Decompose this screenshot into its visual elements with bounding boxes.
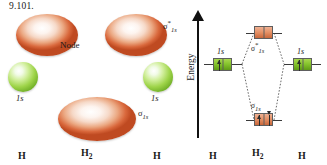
antibonding-orbital-label: σ*1s xyxy=(163,19,177,33)
subshell-glyph: 1s xyxy=(259,47,265,54)
subshell-glyph: 1s xyxy=(171,26,177,33)
atom-symbol: H xyxy=(209,150,217,161)
box-divider xyxy=(263,114,264,125)
atom-symbol: H xyxy=(18,150,26,161)
atomic-orbital-sphere-right xyxy=(143,62,173,92)
bonding-orbital-lobe xyxy=(58,97,136,141)
atom-symbol: H xyxy=(81,147,89,158)
atomic-orbital-label-left: 1s xyxy=(16,93,24,103)
atom-label-h2: H2 xyxy=(81,147,93,161)
energy-level-panel: Energy 1s 1s xyxy=(180,0,327,165)
level-label-sigma-star: σ*1s xyxy=(251,41,264,54)
atom-symbol: H xyxy=(298,150,306,161)
antibonding-lobe-right xyxy=(105,14,167,56)
bonding-orbital-label: σ1s xyxy=(138,108,148,120)
box-divider xyxy=(263,27,264,38)
mo-atom-label-h2: H2 xyxy=(252,147,264,161)
box-divider xyxy=(302,59,303,70)
atom-subscript: 2 xyxy=(260,152,264,161)
orbital-box-1s-right xyxy=(293,58,312,71)
mo-atom-label-h-left: H xyxy=(209,150,217,161)
level-label-1s-right: 1s xyxy=(297,47,304,56)
atom-symbol: H xyxy=(252,147,260,158)
orbital-box-sigma-star xyxy=(254,26,273,39)
correlation-lines xyxy=(180,0,327,165)
atom-label-h-right: H xyxy=(153,150,161,161)
node-label: Node xyxy=(60,40,80,50)
subshell-glyph: 1s xyxy=(255,105,261,112)
atom-subscript: 2 xyxy=(89,152,93,161)
atom-label-h-left: H xyxy=(18,150,26,161)
box-divider xyxy=(222,59,223,70)
mo-diagram-figure: 9.101. Node σ*1s 1s 1s σ1s H H2 H Energy xyxy=(0,0,327,165)
subshell-glyph: 1s xyxy=(143,113,149,120)
level-label-1s-left: 1s xyxy=(217,47,224,56)
orbital-shape-panel: Node σ*1s 1s 1s σ1s H H2 H xyxy=(0,0,180,165)
atomic-orbital-label-right: 1s xyxy=(151,93,159,103)
atom-symbol: H xyxy=(153,150,161,161)
orbital-box-sigma xyxy=(254,113,273,126)
level-label-sigma: σ1s xyxy=(251,101,261,112)
mo-atom-label-h-right: H xyxy=(298,150,306,161)
orbital-box-1s-left xyxy=(213,58,232,71)
atomic-orbital-sphere-left xyxy=(8,62,38,92)
